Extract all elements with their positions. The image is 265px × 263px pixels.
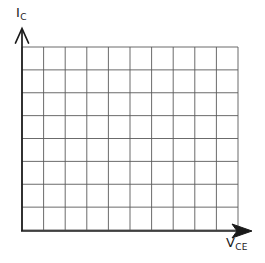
graph-canvas [0, 0, 265, 263]
x-axis-label-subscript: CE [235, 242, 247, 252]
x-axis-label: VCE [226, 236, 248, 249]
x-axis-label-symbol: V [226, 235, 235, 250]
graph-figure: IC VCE [0, 0, 265, 263]
grid-lines [22, 47, 238, 230]
y-axis-label: IC [16, 6, 27, 19]
y-axis-label-subscript: C [20, 12, 26, 22]
